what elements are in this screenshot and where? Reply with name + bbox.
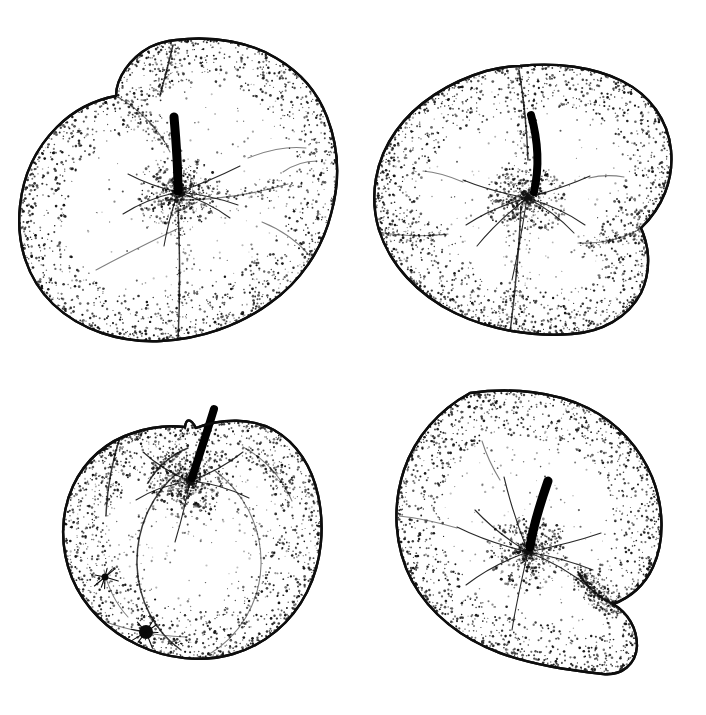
illustration-plate — [0, 0, 706, 715]
blemish-ray — [146, 632, 158, 633]
apple-stem — [174, 117, 178, 191]
apple-plate-svg — [0, 0, 706, 715]
